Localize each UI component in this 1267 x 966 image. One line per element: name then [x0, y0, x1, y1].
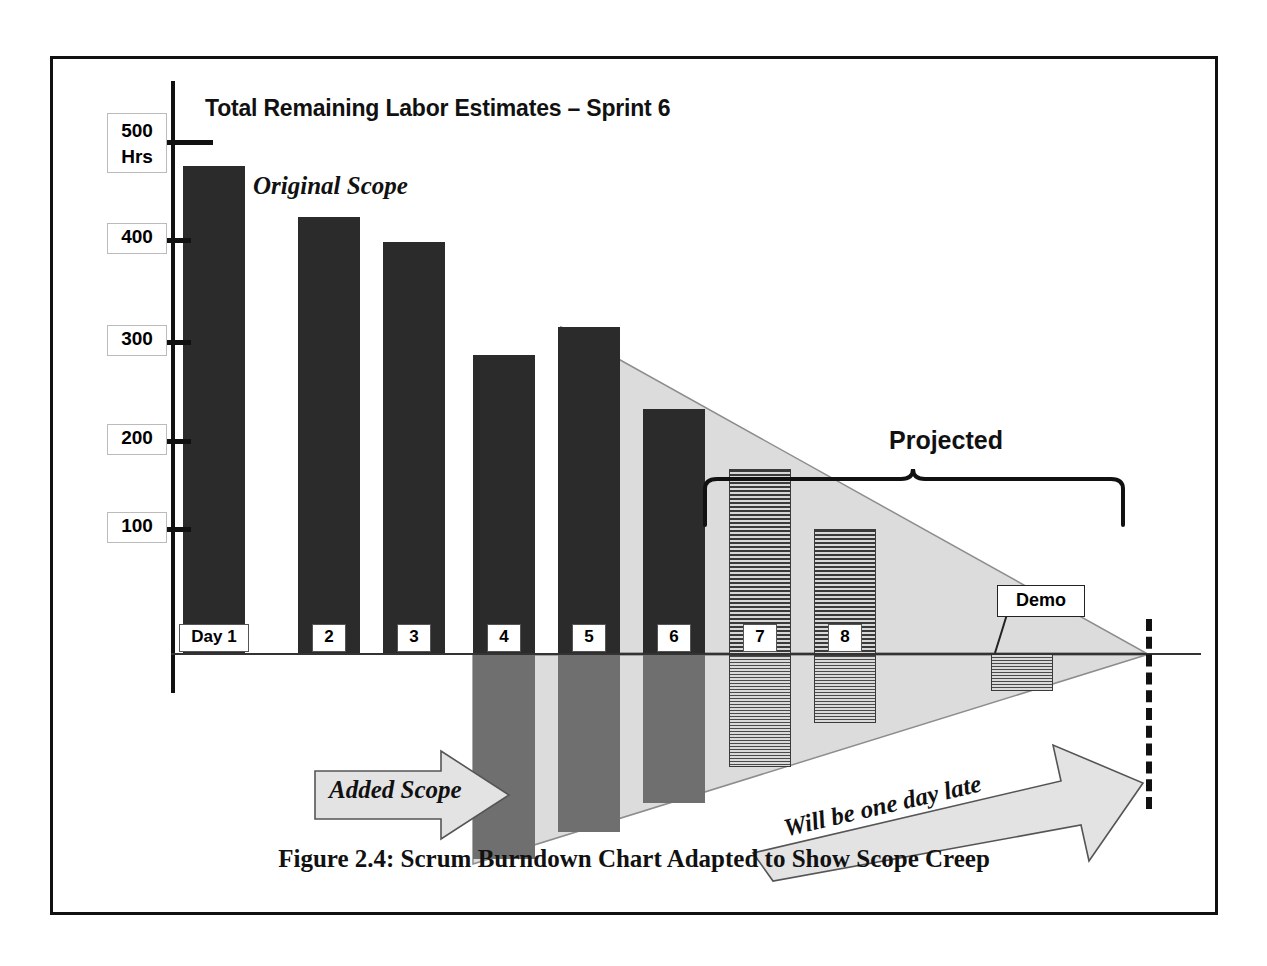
day-label-3: 3 [397, 624, 431, 652]
y-tick-500 [165, 140, 213, 145]
day-label-8: 8 [828, 624, 862, 652]
added-scope-arrow-label: Added Scope [329, 776, 462, 804]
y-tick-200 [165, 439, 191, 444]
y-tick-400 [165, 238, 191, 243]
day-label-7: 7 [743, 624, 777, 652]
chart-title: Total Remaining Labor Estimates – Sprint… [205, 95, 670, 122]
figure-caption: Figure 2.4: Scrum Burndown Chart Adapted… [53, 845, 1215, 873]
y-tick-300 [165, 340, 191, 345]
projected-bracket [693, 463, 1153, 527]
y-axis-label-300: 300 [107, 325, 167, 356]
y-axis-line [171, 81, 175, 693]
demo-label: Demo [997, 585, 1085, 617]
day-label-4: 4 [487, 624, 521, 652]
remaining-bar-day6 [643, 409, 705, 654]
sprint-end-dashed-line [1146, 619, 1152, 809]
y-axis-label-500: 500 Hrs [107, 113, 167, 173]
projected-annotation: Projected [889, 426, 1003, 455]
remaining-bar-day5 [558, 327, 620, 654]
y-axis-label-500-value: 500 [108, 118, 166, 144]
day-label-6: 6 [657, 624, 691, 652]
remaining-bar-day2 [298, 217, 360, 654]
y-tick-100 [165, 527, 191, 532]
original-scope-annotation: Original Scope [253, 172, 408, 200]
added-scope-bar-day6 [643, 655, 705, 803]
figure-frame: 500 Hrs 400 300 200 100 Total Remaining … [50, 56, 1218, 915]
added-scope-bar-day5 [558, 655, 620, 832]
burndown-chart: 500 Hrs 400 300 200 100 Total Remaining … [53, 59, 1215, 912]
y-axis-label-100: 100 [107, 512, 167, 543]
day-label-1: Day 1 [179, 624, 249, 652]
remaining-bar-day3 [383, 242, 445, 654]
y-axis-label-200: 200 [107, 424, 167, 455]
remaining-bar-day4 [473, 355, 535, 654]
y-axis-label-500-unit: Hrs [108, 144, 166, 170]
remaining-bar-day1 [183, 166, 245, 654]
day-label-2: 2 [312, 624, 346, 652]
y-axis-label-400: 400 [107, 223, 167, 254]
day-label-5: 5 [572, 624, 606, 652]
